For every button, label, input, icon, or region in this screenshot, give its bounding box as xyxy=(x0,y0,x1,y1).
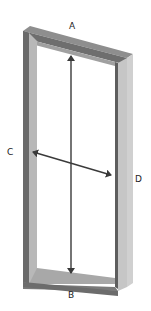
arrow-c-d xyxy=(33,152,111,175)
frame-right-bar-inner xyxy=(115,62,118,289)
frame-top-bar-front xyxy=(23,31,127,65)
label-d: D xyxy=(135,174,142,184)
label-c: C xyxy=(7,147,13,157)
frame-right-bar-top-cap xyxy=(127,54,133,287)
frame-left-bar-inner xyxy=(29,33,37,284)
frame xyxy=(23,26,133,296)
frame-diagram: A B C D xyxy=(0,0,151,311)
frame-bottom-bar-inner xyxy=(29,268,115,284)
frame-left-bar-front xyxy=(23,31,29,284)
label-a: A xyxy=(69,21,76,31)
frame-right-bar-outer xyxy=(118,58,127,291)
label-b: B xyxy=(68,290,74,300)
